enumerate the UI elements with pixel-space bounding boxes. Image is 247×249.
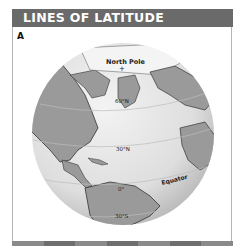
lat-0-label: 0° — [118, 186, 124, 192]
footer-segment — [201, 241, 233, 246]
footer-segment — [138, 241, 170, 246]
footer-segment — [12, 241, 44, 246]
lat-30-label: 30°N — [116, 146, 130, 152]
globe-illustration: North Pole + 60°N 30°N 0° Equator 30°S — [0, 0, 247, 249]
north-pole-label: North Pole — [106, 58, 146, 66]
north-pole-marker-icon: + — [119, 65, 125, 73]
footer-segment — [170, 241, 202, 246]
footer-strip — [12, 241, 233, 246]
lat-60-label: 60°N — [115, 98, 129, 104]
footer-segment — [44, 241, 76, 246]
lat-30s-label: 30°S — [115, 213, 129, 219]
footer-segment — [75, 241, 107, 246]
footer-segment — [107, 241, 139, 246]
